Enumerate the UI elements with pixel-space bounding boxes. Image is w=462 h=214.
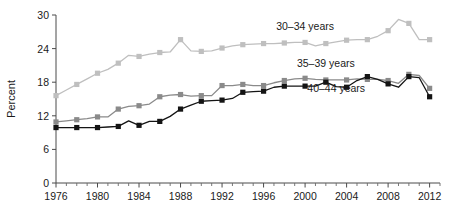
data-point-marker: [240, 82, 245, 87]
y-axis-title: Percent: [5, 80, 17, 118]
data-point-marker: [323, 41, 328, 46]
data-point-marker: [136, 54, 141, 59]
x-tick-label: 2008: [376, 190, 400, 202]
data-point-marker: [219, 98, 224, 103]
x-tick-label: 1988: [169, 190, 193, 202]
data-point-marker: [95, 71, 100, 76]
data-point-marker: [406, 74, 411, 79]
data-point-marker: [386, 81, 391, 86]
x-tick-label: 1984: [127, 190, 151, 202]
data-point-marker: [302, 76, 307, 81]
data-point-marker: [365, 37, 370, 42]
data-point-marker: [116, 124, 121, 129]
y-tick-label: 0: [43, 177, 49, 189]
data-point-marker: [157, 50, 162, 55]
data-point-marker: [136, 123, 141, 128]
data-point-marker: [178, 106, 183, 111]
data-point-marker: [53, 125, 58, 130]
series-lines: [53, 19, 432, 130]
y-tick-label: 12: [37, 110, 49, 122]
data-point-marker: [406, 21, 411, 26]
data-point-marker: [302, 40, 307, 45]
series-label-35-39-years: 35–39 years: [297, 57, 355, 69]
x-tick-label: 1996: [252, 190, 276, 202]
y-tick-label: 30: [37, 9, 49, 21]
series-line: [56, 74, 430, 122]
data-point-marker: [427, 86, 432, 91]
x-tick-label: 1980: [86, 190, 110, 202]
data-point-marker: [240, 90, 245, 95]
x-tick-label: 2004: [335, 190, 359, 202]
data-point-marker: [74, 117, 79, 122]
series-annotations: 30–34 years35–39 years40–44 years: [276, 20, 365, 95]
x-tick-label: 2012: [418, 190, 442, 202]
data-point-marker: [219, 83, 224, 88]
data-point-marker: [282, 78, 287, 83]
data-point-marker: [116, 106, 121, 111]
data-point-marker: [261, 83, 266, 88]
data-point-marker: [95, 125, 100, 130]
data-point-marker: [157, 119, 162, 124]
data-point-marker: [74, 82, 79, 87]
data-point-marker: [199, 99, 204, 104]
x-tick-label: 2000: [293, 190, 317, 202]
data-point-marker: [219, 45, 224, 50]
y-tick-label: 6: [43, 143, 49, 155]
data-point-marker: [116, 61, 121, 66]
data-point-marker: [427, 94, 432, 99]
x-axis: 1976198019841988199219962000200420082012: [44, 183, 441, 202]
series-35-39-years: [53, 72, 432, 125]
data-point-marker: [157, 94, 162, 99]
data-point-marker: [95, 114, 100, 119]
data-point-marker: [386, 28, 391, 33]
data-point-marker: [178, 92, 183, 97]
series-label-30-34-years: 30–34 years: [276, 20, 334, 32]
data-point-marker: [136, 103, 141, 108]
x-tick-label: 1992: [210, 190, 234, 202]
data-point-marker: [282, 84, 287, 89]
line-chart: 0612182430 19761980198419881992199620002…: [0, 0, 462, 214]
chart-container: 0612182430 19761980198419881992199620002…: [0, 0, 462, 214]
data-point-marker: [178, 37, 183, 42]
data-point-marker: [365, 74, 370, 79]
data-point-marker: [261, 89, 266, 94]
x-tick-label: 1976: [44, 190, 68, 202]
data-point-marker: [199, 49, 204, 54]
data-point-marker: [240, 42, 245, 47]
y-tick-label: 18: [37, 76, 49, 88]
data-point-marker: [74, 125, 79, 130]
data-point-marker: [261, 41, 266, 46]
data-point-marker: [53, 93, 58, 98]
data-point-marker: [427, 37, 432, 42]
data-point-marker: [53, 119, 58, 124]
data-point-marker: [282, 40, 287, 45]
series-label-40-44-years: 40–44 years: [307, 82, 365, 94]
y-axis: 0612182430: [37, 9, 56, 189]
data-point-marker: [199, 93, 204, 98]
data-point-marker: [344, 38, 349, 43]
y-tick-label: 24: [37, 43, 49, 55]
